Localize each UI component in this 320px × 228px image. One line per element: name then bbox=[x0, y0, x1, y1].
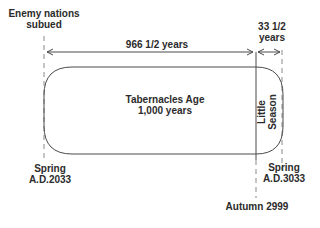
main-box-subtitle: 1,000 years bbox=[110, 105, 220, 116]
bottom-center-label: Autumn 2999 bbox=[212, 201, 302, 212]
main-box-title: Tabernacles Age bbox=[110, 94, 220, 105]
bottom-left-label: Spring A.D.2033 bbox=[22, 163, 78, 185]
small-span-label-line1: 33 1/2 bbox=[252, 21, 292, 32]
bottom-right-line2: A.D.3033 bbox=[256, 173, 312, 184]
bottom-right-label: Spring A.D.3033 bbox=[256, 162, 312, 184]
little-season-line2: Season bbox=[267, 88, 278, 136]
top-left-label-line1: Enemy nations bbox=[8, 8, 80, 19]
top-left-label: Enemy nations subued bbox=[8, 8, 80, 30]
bottom-left-line2: A.D.2033 bbox=[22, 174, 78, 185]
top-left-label-line2: subued bbox=[8, 19, 80, 30]
small-span-label-line2: years bbox=[252, 32, 292, 43]
bottom-right-line1: Spring bbox=[256, 162, 312, 173]
small-span-label: 33 1/2 years bbox=[252, 21, 292, 43]
little-season-line1: Little bbox=[256, 88, 267, 136]
main-span-label: 966 1/2 years bbox=[112, 39, 202, 50]
main-box-label: Tabernacles Age 1,000 years bbox=[110, 94, 220, 116]
little-season-label: Little Season bbox=[256, 88, 280, 136]
bottom-left-line1: Spring bbox=[22, 163, 78, 174]
